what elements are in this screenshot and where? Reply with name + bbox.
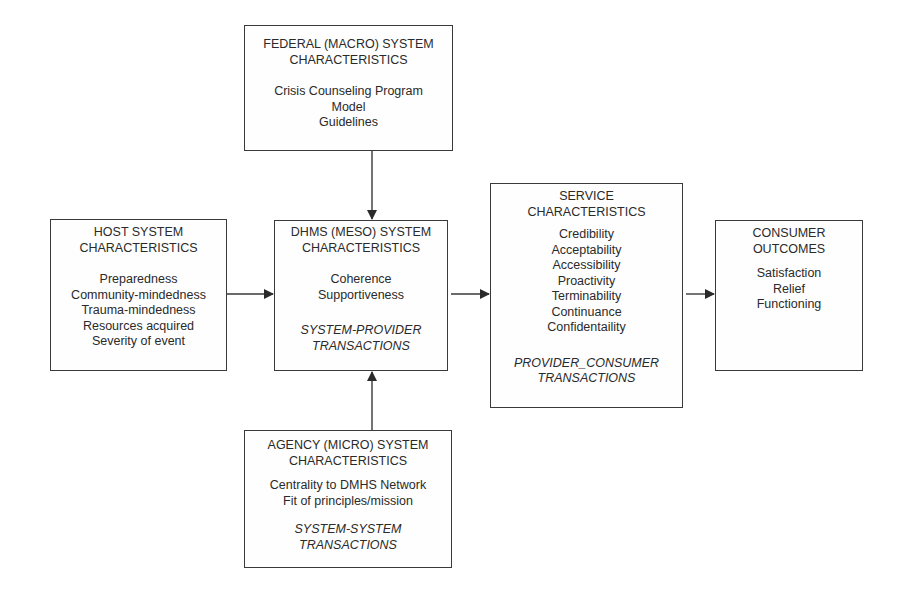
item: Confidentaility [491,320,682,336]
box-items: Crisis Counseling Program Model Guidelin… [245,84,452,131]
item: Trauma-mindedness [51,303,226,319]
note-line: SYSTEM-SYSTEM [245,522,451,538]
item: Community-mindedness [51,288,226,304]
note-line: TRANSACTIONS [245,538,451,554]
item: Relief [716,282,862,298]
item: Resources acquired [51,319,226,335]
title-line: CHARACTERISTICS [245,53,452,69]
transaction-note: PROVIDER_CONSUMER TRANSACTIONS [491,356,682,387]
box-title: FEDERAL (MACRO) SYSTEM CHARACTERISTICS [245,37,452,68]
note-line: TRANSACTIONS [491,371,682,387]
item: Accessibility [491,258,682,274]
federal-macro-system-box: FEDERAL (MACRO) SYSTEM CHARACTERISTICS C… [244,25,453,151]
item: Severity of event [51,334,226,350]
title-line: SERVICE [491,189,682,205]
note-line: PROVIDER_CONSUMER [491,356,682,372]
dhms-meso-system-box: DHMS (MESO) SYSTEM CHARACTERISTICS Coher… [274,220,448,371]
box-title: DHMS (MESO) SYSTEM CHARACTERISTICS [275,225,447,256]
agency-micro-system-box: AGENCY (MICRO) SYSTEM CHARACTERISTICS Ce… [244,430,452,568]
item: Proactivity [491,274,682,290]
box-title: CONSUMER OUTCOMES [716,226,862,257]
item: Continuance [491,305,682,321]
item: Model [245,100,452,116]
title-line: CHARACTERISTICS [245,454,451,470]
box-items: Satisfaction Relief Functioning [716,266,862,313]
item: Guidelines [245,115,452,131]
note-line: TRANSACTIONS [275,339,447,355]
service-characteristics-box: SERVICE CHARACTERISTICS Credibility Acce… [490,183,683,408]
title-line: OUTCOMES [716,242,862,258]
item: Satisfaction [716,266,862,282]
item: Preparedness [51,272,226,288]
title-line: DHMS (MESO) SYSTEM [275,225,447,241]
box-title: SERVICE CHARACTERISTICS [491,189,682,220]
transaction-note: SYSTEM-SYSTEM TRANSACTIONS [245,522,451,553]
box-items: Coherence Supportiveness [275,272,447,303]
box-items: Centrality to DMHS Network Fit of princi… [245,478,451,509]
consumer-outcomes-box: CONSUMER OUTCOMES Satisfaction Relief Fu… [715,220,863,371]
item: Credibility [491,227,682,243]
title-line: HOST SYSTEM [51,225,226,241]
title-line: CHARACTERISTICS [275,241,447,257]
note-line: SYSTEM-PROVIDER [275,323,447,339]
item: Crisis Counseling Program [245,84,452,100]
title-line: FEDERAL (MACRO) SYSTEM [245,37,452,53]
box-title: AGENCY (MICRO) SYSTEM CHARACTERISTICS [245,438,451,469]
item: Coherence [275,272,447,288]
title-line: AGENCY (MICRO) SYSTEM [245,438,451,454]
transaction-note: SYSTEM-PROVIDER TRANSACTIONS [275,323,447,354]
box-items: Preparedness Community-mindedness Trauma… [51,272,226,350]
title-line: CONSUMER [716,226,862,242]
box-title: HOST SYSTEM CHARACTERISTICS [51,225,226,256]
title-line: CHARACTERISTICS [51,241,226,257]
item: Centrality to DMHS Network [245,478,451,494]
box-items: Credibility Acceptability Accessibility … [491,227,682,336]
item: Fit of principles/mission [245,494,451,510]
item: Terminability [491,289,682,305]
host-system-box: HOST SYSTEM CHARACTERISTICS Preparedness… [50,219,227,371]
item: Acceptability [491,243,682,259]
item: Functioning [716,297,862,313]
title-line: CHARACTERISTICS [491,205,682,221]
item: Supportiveness [275,288,447,304]
